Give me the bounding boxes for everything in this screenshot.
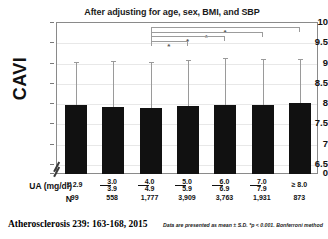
y-tick-label: 9 — [282, 58, 328, 68]
category-label: ≤ 2.9 — [55, 181, 95, 188]
error-bar — [113, 61, 114, 108]
y-tick-mark — [50, 42, 54, 43]
bar — [65, 105, 87, 174]
category-label: 3.03.9 — [92, 178, 132, 193]
y-tick-label: 0 — [282, 168, 328, 178]
gridline — [57, 84, 317, 85]
chart-figure: After adjusting for age, sex, BMI, and S… — [0, 0, 328, 239]
y-tick-mark — [50, 103, 54, 104]
n-count: 1,777 — [130, 194, 170, 201]
bar — [252, 105, 274, 174]
n-count: 99 — [55, 194, 95, 201]
bar — [177, 106, 199, 174]
n-count: 1,931 — [242, 194, 282, 201]
y-tick-label: 8.5 — [282, 78, 328, 88]
error-bar — [188, 60, 189, 106]
citation-text: Atherosclerosis 239: 163-168, 2015 — [8, 219, 148, 229]
error-bar — [76, 62, 77, 106]
chart-title: After adjusting for age, sex, BMI, and S… — [52, 7, 292, 17]
error-bar-cap — [149, 62, 154, 63]
category-label: 5.05.9 — [167, 178, 207, 193]
n-count: 3,763 — [204, 194, 244, 201]
n-count: 873 — [279, 194, 319, 201]
significance-star: * — [167, 43, 170, 51]
error-bar-cap — [186, 60, 191, 61]
bar — [140, 108, 162, 174]
y-tick-mark — [50, 63, 54, 64]
error-bar — [225, 58, 226, 105]
category-label: 6.06.9 — [204, 178, 244, 193]
error-bar-cap — [111, 61, 116, 62]
footnote-text: Data are presented as mean ± S.D. *p < 0… — [163, 222, 323, 228]
y-tick-label: 7.5 — [282, 118, 328, 128]
y-tick-label: 7 — [282, 139, 328, 149]
error-bar-cap — [261, 59, 266, 60]
bar — [102, 107, 124, 174]
y-tick-label: 9.5 — [282, 37, 328, 47]
y-tick-mark — [50, 164, 54, 165]
n-count: 558 — [92, 194, 132, 201]
gridline — [57, 64, 317, 65]
bar — [214, 105, 236, 174]
gridline — [57, 104, 317, 105]
plot-area: **** — [56, 22, 318, 174]
y-tick-mark — [50, 144, 54, 145]
category-table: UA (mg/dl) N ≤ 2.9993.03.95584.04.91,777… — [0, 176, 328, 211]
category-label: 7.07.9 — [242, 178, 282, 193]
y-axis-title: CAVI — [10, 39, 31, 119]
error-bar-cap — [74, 62, 79, 63]
category-label: ≥ 8.0 — [279, 181, 319, 188]
y-tick-label: 8 — [282, 98, 328, 108]
y-tick-mark — [50, 123, 54, 124]
error-bar-cap — [223, 58, 228, 59]
n-count: 3,909 — [167, 194, 207, 201]
error-bar — [151, 62, 152, 108]
y-tick-mark — [50, 83, 54, 84]
category-label: 4.04.9 — [130, 178, 170, 193]
y-tick-mark — [50, 22, 54, 23]
y-tick-label: 10 — [282, 17, 328, 27]
error-bar — [263, 59, 264, 105]
